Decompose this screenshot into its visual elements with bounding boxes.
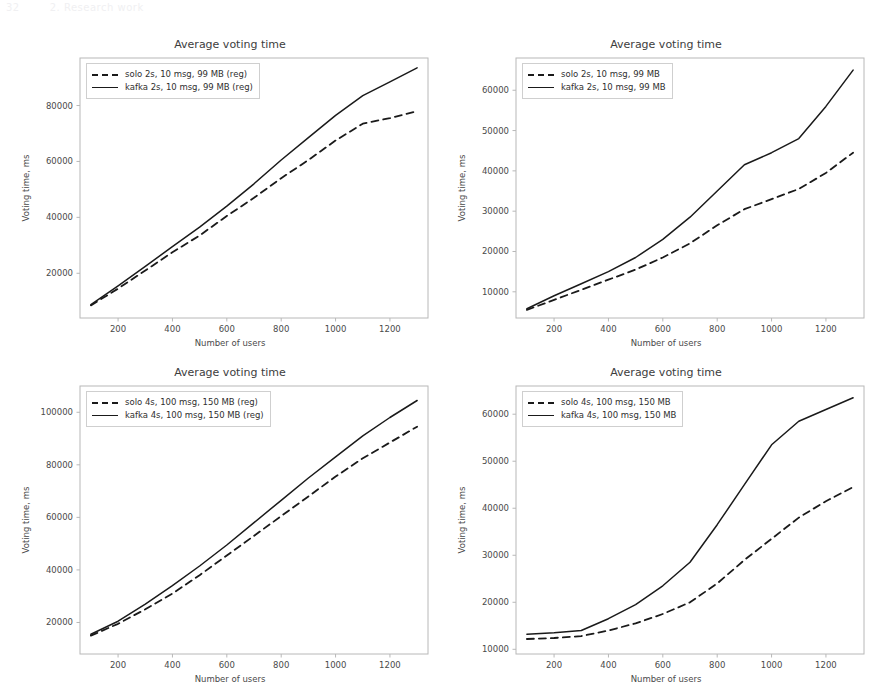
y-tick-label: 60000 <box>450 85 509 95</box>
x-tick-label: 1200 <box>815 324 837 334</box>
page-header: 32 2. Research work <box>0 0 894 14</box>
figure-grid: Average voting time200400600800100012002… <box>0 18 894 699</box>
x-tick-label: 1000 <box>325 660 347 670</box>
series-line-2 <box>91 68 417 305</box>
legend-item-2: kafka 4s, 100 msg, 150 MB <box>528 409 676 422</box>
x-tick-label: 400 <box>600 324 616 334</box>
x-tick-label: 600 <box>655 660 671 670</box>
legend-item-1: solo 2s, 10 msg, 99 MB (reg) <box>92 68 253 81</box>
y-tick-label: 80000 <box>14 101 73 111</box>
y-tick-label: 40000 <box>14 565 73 575</box>
legend-label: kafka 2s, 10 msg, 99 MB (reg) <box>125 81 253 94</box>
series-line-2 <box>527 398 853 635</box>
legend-item-2: kafka 2s, 10 msg, 99 MB <box>528 81 666 94</box>
figure-top-right: Average voting time200400600800100012001… <box>450 32 882 362</box>
legend-label: solo 2s, 10 msg, 99 MB (reg) <box>125 68 247 81</box>
y-tick-label: 50000 <box>450 456 509 466</box>
y-tick-label: 20000 <box>450 246 509 256</box>
x-tick-label: 1200 <box>379 660 401 670</box>
legend-item-1: solo 4s, 100 msg, 150 MB <box>528 396 676 409</box>
x-tick-label: 200 <box>546 660 562 670</box>
x-tick-label: 800 <box>273 660 289 670</box>
x-tick-label: 1000 <box>761 660 783 670</box>
x-tick-label: 1000 <box>761 324 783 334</box>
x-tick-label: 600 <box>655 324 671 334</box>
y-tick-label: 100000 <box>14 407 73 417</box>
y-tick-label: 20000 <box>14 268 73 278</box>
y-tick-label: 10000 <box>450 644 509 654</box>
x-axis-label: Number of users <box>14 674 446 684</box>
x-axis-label: Number of users <box>450 674 882 684</box>
figure-top-left: Average voting time200400600800100012002… <box>14 32 446 362</box>
x-tick-label: 400 <box>164 324 180 334</box>
chart-legend[interactable]: solo 2s, 10 msg, 99 MB (reg)kafka 2s, 10… <box>86 63 260 99</box>
y-axis-label: Voting time, ms <box>457 155 467 222</box>
y-tick-label: 60000 <box>450 409 509 419</box>
legend-label: solo 4s, 100 msg, 150 MB (reg) <box>125 396 258 409</box>
chart-legend[interactable]: solo 2s, 10 msg, 99 MBkafka 2s, 10 msg, … <box>522 63 673 99</box>
y-tick-label: 80000 <box>14 460 73 470</box>
legend-item-1: solo 2s, 10 msg, 99 MB <box>528 68 666 81</box>
x-tick-label: 400 <box>164 660 180 670</box>
legend-label: kafka 2s, 10 msg, 99 MB <box>561 81 666 94</box>
x-tick-label: 800 <box>709 324 725 334</box>
y-axis-label: Voting time, ms <box>21 487 31 554</box>
series-line-1 <box>91 427 417 636</box>
series-line-2 <box>91 401 417 635</box>
x-tick-label: 1000 <box>325 324 347 334</box>
x-tick-label: 400 <box>600 660 616 670</box>
x-tick-label: 200 <box>546 324 562 334</box>
x-tick-label: 200 <box>110 324 126 334</box>
x-tick-label: 1200 <box>379 324 401 334</box>
x-tick-label: 600 <box>219 324 235 334</box>
page-header-right: 2. Research work <box>50 2 144 13</box>
series-line-1 <box>91 111 417 305</box>
y-tick-label: 50000 <box>450 126 509 136</box>
y-tick-label: 20000 <box>450 597 509 607</box>
x-tick-label: 600 <box>219 660 235 670</box>
x-axis-label: Number of users <box>14 338 446 348</box>
y-tick-label: 10000 <box>450 287 509 297</box>
page-header-left: 32 <box>6 2 20 13</box>
legend-label: solo 2s, 10 msg, 99 MB <box>561 68 660 81</box>
figure-bottom-right: Average voting time200400600800100012001… <box>450 360 882 698</box>
x-tick-label: 800 <box>273 324 289 334</box>
figure-bottom-left: Average voting time200400600800100012002… <box>14 360 446 698</box>
legend-item-2: kafka 4s, 100 msg, 150 MB (reg) <box>92 409 264 422</box>
x-axis-label: Number of users <box>450 338 882 348</box>
legend-item-2: kafka 2s, 10 msg, 99 MB (reg) <box>92 81 253 94</box>
y-tick-label: 20000 <box>14 617 73 627</box>
legend-label: kafka 4s, 100 msg, 150 MB <box>561 409 676 422</box>
y-axis-label: Voting time, ms <box>21 155 31 222</box>
chart-legend[interactable]: solo 4s, 100 msg, 150 MBkafka 4s, 100 ms… <box>522 391 683 427</box>
y-axis-label: Voting time, ms <box>457 487 467 554</box>
x-tick-label: 800 <box>709 660 725 670</box>
legend-item-1: solo 4s, 100 msg, 150 MB (reg) <box>92 396 264 409</box>
x-tick-label: 1200 <box>815 660 837 670</box>
chart-legend[interactable]: solo 4s, 100 msg, 150 MB (reg)kafka 4s, … <box>86 391 271 427</box>
series-line-2 <box>527 70 853 309</box>
legend-label: solo 4s, 100 msg, 150 MB <box>561 396 671 409</box>
legend-label: kafka 4s, 100 msg, 150 MB (reg) <box>125 409 264 422</box>
x-tick-label: 200 <box>110 660 126 670</box>
